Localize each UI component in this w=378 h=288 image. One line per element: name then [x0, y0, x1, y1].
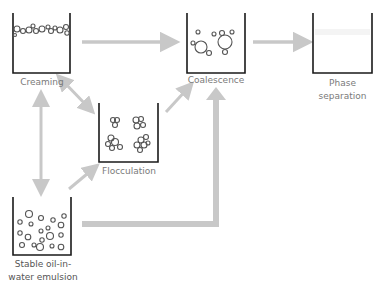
- label-stable-line2: water emulsion: [0, 271, 86, 284]
- diagram-canvas: [0, 0, 378, 288]
- beaker-flocculation: [99, 103, 158, 162]
- label-phase-line2: separation: [305, 90, 378, 103]
- beaker-creaming: [13, 13, 70, 73]
- label-creaming: Creaming: [8, 76, 76, 89]
- beaker-coalescence: [187, 13, 245, 73]
- arrow-flocculation-to-coalescence: [166, 88, 188, 112]
- label-stable: Stable oil-in- water emulsion: [0, 258, 86, 284]
- label-phase-line1: Phase: [305, 77, 378, 90]
- label-stable-line1: Stable oil-in-: [0, 258, 86, 271]
- beaker-stable: [13, 197, 71, 255]
- arrow-stable-to-flocculation: [69, 169, 93, 189]
- label-phase-separation: Phase separation: [305, 77, 378, 103]
- arrows: [41, 42, 303, 224]
- arrow-stable-to-coalescence: [82, 98, 216, 224]
- arrowhead-coalescence-up: [206, 87, 226, 100]
- beaker-phase-separation: [313, 13, 372, 73]
- droplets: [14, 24, 70, 37]
- label-flocculation: Flocculation: [93, 165, 165, 178]
- label-coalescence: Coalescence: [180, 74, 252, 87]
